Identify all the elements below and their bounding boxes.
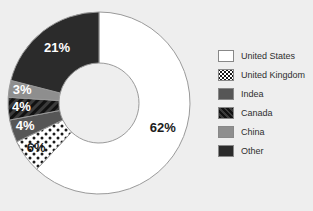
slice-data-label: 4% [12,99,31,114]
slice-data-label: 62% [150,120,176,135]
legend-item[interactable]: United Kingdom [218,65,313,84]
legend-item[interactable]: Indea [218,84,313,103]
legend-swatch-icon [218,50,234,62]
legend-item-label: Indea [241,88,264,100]
legend-item-label: Canada [241,107,273,119]
legend-item[interactable]: Canada [218,103,313,122]
slice-data-label: 3% [13,82,32,97]
legend-swatch-icon [218,126,234,138]
legend-item[interactable]: Other [218,141,313,160]
legend-swatch-icon [218,88,234,100]
chart-legend: United StatesUnited KingdomIndeaCanadaCh… [218,46,313,160]
slice-data-label: 21% [44,40,70,55]
donut-slices [8,12,190,194]
donut-chart-figure: 62%6%4%4%3%21% United StatesUnited Kingd… [0,0,313,211]
legend-item-label: United Kingdom [241,69,305,81]
legend-swatch-icon [218,145,234,157]
legend-item-label: United States [241,50,295,62]
slice-data-label: 4% [16,118,35,133]
legend-item-label: Other [241,145,264,157]
legend-swatch-icon [218,107,234,119]
slice-data-label: 6% [27,140,46,155]
legend-item-label: China [241,126,265,138]
legend-swatch-icon [218,69,234,81]
legend-item[interactable]: United States [218,46,313,65]
legend-item[interactable]: China [218,122,313,141]
